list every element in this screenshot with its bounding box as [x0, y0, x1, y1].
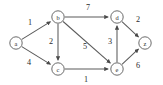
graph-node-b: b: [52, 11, 64, 23]
edge-weight-b-e: 5: [83, 42, 87, 51]
graph-node-c: c: [52, 63, 64, 75]
graph-edge-a-b: [22, 22, 51, 40]
graph-figure: abcdez 147251326: [0, 0, 163, 85]
edge-weight-c-e: 1: [84, 75, 88, 84]
graph-node-d: d: [111, 11, 123, 23]
node-label-z: z: [144, 40, 147, 47]
node-label-c: c: [57, 66, 60, 73]
graph-diagram-svg: abcdez 147251326: [0, 0, 163, 85]
graph-node-a: a: [10, 37, 22, 49]
graph-node-e: e: [111, 63, 123, 75]
edge-weight-b-d: 7: [86, 3, 90, 12]
node-label-a: a: [15, 40, 18, 47]
edge-weight-d-z: 2: [136, 15, 140, 24]
node-label-b: b: [56, 14, 59, 21]
edge-weight-e-d: 3: [108, 37, 112, 46]
edge-weight-a-c: 4: [27, 58, 31, 67]
graph-node-z: z: [139, 37, 151, 49]
edge-weight-a-b: 1: [28, 18, 32, 27]
graph-edge-d-z: [122, 22, 139, 37]
edge-weight-e-z: 6: [136, 61, 140, 70]
edge-weight-b-c: 2: [49, 37, 53, 46]
node-label-e: e: [116, 66, 119, 73]
edges-layer: [22, 17, 139, 69]
